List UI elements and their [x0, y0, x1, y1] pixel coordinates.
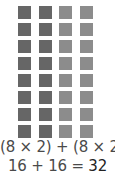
array-square	[80, 40, 93, 53]
equation-partial-products: (8 × 2) + (8 × 2)	[0, 138, 115, 156]
array-square	[39, 57, 52, 70]
array-square	[18, 6, 31, 19]
array-square	[59, 6, 72, 19]
plus-sign: +	[52, 138, 74, 156]
array-square	[59, 74, 72, 87]
array-square	[80, 125, 93, 138]
array-square	[80, 23, 93, 36]
array-square	[39, 91, 52, 104]
sum-result: 32	[88, 157, 107, 175]
array-square	[80, 6, 93, 19]
right-factor-group: (8 × 2)	[73, 138, 115, 156]
array-square	[59, 91, 72, 104]
array-square	[18, 74, 31, 87]
array-square	[18, 91, 31, 104]
sum-expression: 16 + 16 =	[8, 157, 88, 175]
array-square	[59, 23, 72, 36]
array-square	[80, 57, 93, 70]
array-square	[39, 6, 52, 19]
left-factor-group: (8 × 2)	[0, 138, 52, 156]
array-square	[39, 40, 52, 53]
array-square	[18, 57, 31, 70]
array-square	[39, 74, 52, 87]
array-square	[59, 108, 72, 121]
array-square	[80, 108, 93, 121]
array-square	[18, 125, 31, 138]
equation-sum: 16 + 16 = 32	[0, 157, 115, 175]
array-square	[59, 40, 72, 53]
array-square	[39, 125, 52, 138]
array-square	[39, 108, 52, 121]
array-square	[39, 23, 52, 36]
array-square	[80, 74, 93, 87]
array-square	[18, 40, 31, 53]
array-square	[59, 125, 72, 138]
array-grid	[18, 6, 93, 138]
array-square	[80, 91, 93, 104]
array-square	[18, 23, 31, 36]
array-square	[59, 57, 72, 70]
array-square	[18, 108, 31, 121]
